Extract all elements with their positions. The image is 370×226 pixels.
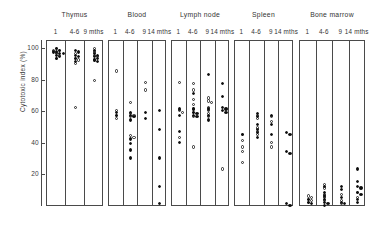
data-point-open (144, 88, 147, 91)
data-point-open (181, 111, 184, 114)
data-point-filled (207, 73, 210, 76)
y-axis-line (41, 40, 42, 206)
data-point-filled (144, 117, 147, 120)
data-point-filled (62, 52, 65, 55)
y-tick-mark (41, 143, 45, 144)
age-group-label: 14 mths (274, 28, 297, 35)
data-point-filled (256, 131, 259, 134)
data-point-filled (178, 141, 181, 144)
data-point-filled (129, 156, 132, 159)
y-tick-mark (41, 48, 45, 49)
data-point-filled (288, 133, 291, 136)
data-point-open (115, 117, 118, 120)
age-group-column (187, 41, 202, 205)
age-group-column (201, 41, 216, 205)
data-point-filled (178, 130, 181, 133)
panel-title: Lymph node (171, 11, 229, 18)
data-point-filled (323, 204, 326, 207)
y-tick-mark (41, 174, 45, 175)
panel-lymph-node (171, 40, 229, 206)
data-point-filled (129, 137, 132, 140)
age-group-column (279, 41, 294, 205)
data-point-open (192, 145, 195, 148)
data-point-filled (224, 111, 227, 114)
data-point-filled (359, 186, 362, 189)
data-point-filled (340, 188, 343, 191)
data-point-filled (340, 196, 343, 199)
data-point-filled (55, 57, 58, 60)
panel-title: Spleen (234, 11, 293, 18)
data-point-filled (178, 114, 181, 117)
data-point-filled (207, 114, 210, 117)
data-point-open (178, 81, 181, 84)
y-tick-label: 80 (13, 76, 39, 83)
panel-blood (108, 40, 166, 206)
data-point-open (132, 136, 135, 139)
age-group-column (138, 41, 153, 205)
age-group-column (216, 41, 231, 205)
data-point-open (178, 136, 181, 139)
data-point-filled (241, 133, 244, 136)
cytotoxic-index-strip-plot: Cytotoxic index (%) 20406080100 Thymus14… (0, 0, 370, 226)
data-point-filled (359, 193, 362, 196)
age-group-column (300, 41, 317, 205)
age-group-column (235, 41, 250, 205)
age-group-column (66, 41, 85, 205)
age-group-column (85, 41, 104, 205)
age-group-column (153, 41, 168, 205)
y-tick-label: 60 (13, 107, 39, 114)
y-tick-label: 20 (13, 170, 39, 177)
panel-thymus (46, 40, 103, 206)
y-tick-label: 100 (13, 44, 39, 51)
panel-bone-marrow (299, 40, 365, 206)
data-point-open (241, 145, 244, 148)
data-point-filled (178, 107, 181, 110)
data-point-filled (144, 111, 147, 114)
data-point-open (115, 69, 118, 72)
age-group-label: 14 mths (345, 28, 370, 35)
age-group-column (317, 41, 334, 205)
data-point-filled (115, 114, 118, 117)
data-point-filled (207, 107, 210, 110)
age-group-column (333, 41, 350, 205)
data-point-filled (52, 50, 55, 53)
panel-title: Blood (108, 11, 166, 18)
y-tick-mark (41, 111, 45, 112)
panel-title: Thymus (46, 11, 103, 18)
age-group-column (124, 41, 139, 205)
age-group-column (109, 41, 124, 205)
y-tick-label: 40 (13, 139, 39, 146)
data-point-filled (288, 152, 291, 155)
age-group-column (172, 41, 187, 205)
data-point-filled (158, 156, 161, 159)
panel-spleen (234, 40, 293, 206)
data-point-filled (288, 204, 291, 207)
data-point-filled (256, 136, 259, 139)
age-group-column (47, 41, 66, 205)
data-point-open (74, 106, 77, 109)
age-group-label: 9 mths (80, 28, 107, 35)
data-point-filled (207, 118, 210, 121)
panel-title: Bone marrow (299, 11, 365, 18)
data-point-open (144, 81, 147, 84)
y-tick-mark (41, 80, 45, 81)
